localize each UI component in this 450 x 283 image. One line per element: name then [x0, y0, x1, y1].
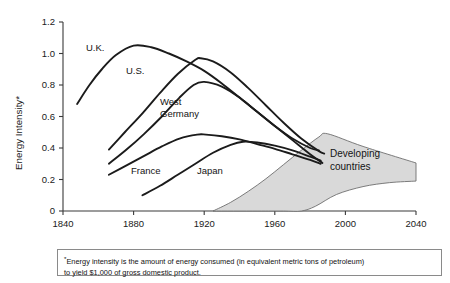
x-tick-label: 1880: [123, 218, 144, 229]
developing-countries-band: [213, 133, 416, 211]
series-label-france: France: [131, 165, 161, 176]
y-tick-label: 0.4: [42, 142, 55, 153]
x-tick-label: 1960: [264, 218, 285, 229]
x-tick-label: 2040: [405, 218, 426, 229]
x-axis-ticks: 184018801920196020002040: [52, 211, 426, 229]
x-tick-label: 1840: [52, 218, 73, 229]
series-label-japan: Japan: [197, 165, 223, 176]
y-tick-label: 0.2: [42, 174, 55, 185]
x-tick-label: 1920: [194, 218, 215, 229]
series-label-west-germany-line2: Germany: [160, 108, 199, 119]
band-label-line1: Developing: [330, 148, 380, 159]
series-labels: U.K. U.S. West Germany France Japan: [86, 42, 223, 176]
y-axis-title: Energy Intensity*: [13, 96, 24, 170]
footnote-box: *Energy intensity is the amount of energ…: [57, 249, 442, 276]
chart-canvas: Energy Intensity* 00.20.40.60.81.01.2 18…: [0, 0, 450, 283]
series-label-us: U.S.: [126, 65, 144, 76]
y-axis-ticks: 00.20.40.60.81.01.2: [42, 16, 63, 216]
series-label-west-germany-line1: West: [160, 96, 182, 107]
y-tick-label: 0: [50, 205, 55, 216]
y-tick-label: 0.8: [42, 79, 55, 90]
y-tick-label: 1.0: [42, 48, 55, 59]
band-label-line2: countries: [330, 161, 371, 172]
footnote-line2: to yield $1,000 of gross domestic produc…: [64, 268, 201, 277]
footnote-line1: Energy intensity is the amount of energy…: [66, 257, 364, 266]
y-tick-label: 0.6: [42, 111, 55, 122]
y-tick-label: 1.2: [42, 16, 55, 27]
series-label-uk: U.K.: [86, 42, 104, 53]
x-tick-label: 2000: [335, 218, 356, 229]
y-axis-title-text: Energy Intensity*: [13, 96, 24, 170]
footnote-text: *Energy intensity is the amount of energ…: [58, 250, 441, 278]
energy-intensity-chart: Energy Intensity* 00.20.40.60.81.01.2 18…: [0, 0, 450, 283]
